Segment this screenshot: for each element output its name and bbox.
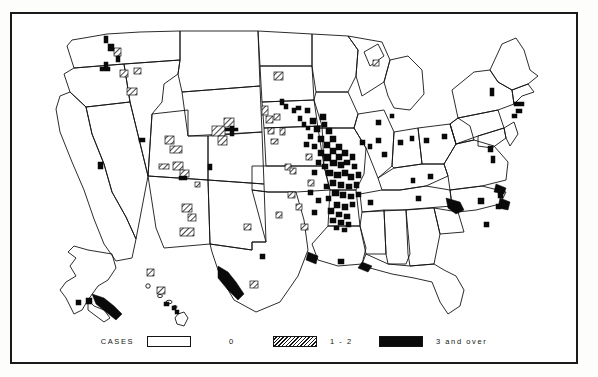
figure-page: CASES 0 1 - 2 3 and over (0, 0, 598, 377)
legend-item-solid: 3 and over (379, 336, 487, 347)
us-county-map (12, 14, 576, 332)
map-legend: CASES 0 1 - 2 3 and over (12, 328, 576, 354)
legend-swatch-solid (379, 336, 423, 347)
legend-swatch-none (147, 336, 191, 347)
legend-label-solid: 3 and over (436, 337, 487, 346)
legend-swatch-hatch (273, 336, 317, 347)
legend-label-none: 0 (229, 337, 235, 346)
figure-frame: CASES 0 1 - 2 3 and over (10, 12, 578, 364)
legend-label-hatch: 1 - 2 (330, 337, 353, 346)
legend-item-hatch: 1 - 2 (273, 336, 353, 347)
counties-class-1-2 (114, 48, 379, 294)
map-area (12, 14, 576, 332)
legend-title: CASES (101, 337, 134, 346)
legend-item-none: 0 (147, 336, 235, 347)
